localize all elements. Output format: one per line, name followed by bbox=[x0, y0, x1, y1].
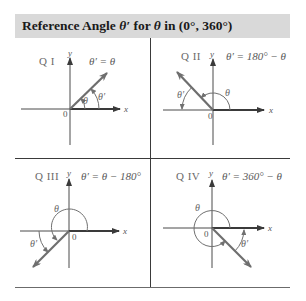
ref-angle-label: θ′ bbox=[98, 91, 106, 102]
origin-label: 0 bbox=[204, 229, 209, 239]
ref-angle-label: θ′ bbox=[241, 238, 249, 249]
theta-label: θ bbox=[225, 87, 230, 98]
terminal-ray bbox=[33, 231, 69, 267]
y-axis-label: y bbox=[66, 168, 71, 178]
theta-label: θ bbox=[83, 95, 88, 106]
quadrant-label: Q IV bbox=[176, 170, 200, 182]
x-axis-label: x bbox=[123, 104, 128, 114]
quadrant-label: Q I bbox=[39, 55, 55, 67]
formula: θ′ = θ − 180° bbox=[81, 170, 142, 182]
ref-angle-label: θ′ bbox=[177, 89, 185, 100]
quadrant-label: Q III bbox=[35, 170, 59, 182]
theta-label: θ bbox=[54, 203, 59, 214]
panel-q1: Q I θ′ = θ y x 0 θ θ′ bbox=[21, 48, 128, 145]
quadrant-label: Q II bbox=[181, 50, 201, 62]
formula: θ′ = 360° − θ bbox=[222, 170, 283, 182]
ref-angle-label: θ′ bbox=[30, 238, 38, 249]
quadrant-diagrams: Q I θ′ = θ y x 0 θ θ′ Q II θ′ = 180° − θ… bbox=[0, 0, 306, 301]
y-axis-label: y bbox=[208, 168, 213, 178]
origin-label: 0 bbox=[72, 232, 77, 242]
panel-q4: Q IV θ′ = 360° − θ y x 0 θ θ′ bbox=[163, 168, 283, 268]
origin-label: 0 bbox=[63, 109, 68, 119]
x-axis-label: x bbox=[268, 105, 273, 115]
x-axis-label: x bbox=[122, 226, 127, 236]
panel-q3: Q III θ′ = θ − 180° y x 0 θ θ′ bbox=[20, 168, 142, 268]
formula: θ′ = 180° − θ bbox=[226, 50, 287, 62]
x-axis-label: x bbox=[267, 223, 272, 233]
panel-q2: Q II θ′ = 180° − θ y x 0 θ θ′ bbox=[163, 49, 287, 145]
ref-angle-arc bbox=[39, 231, 48, 252]
formula: θ′ = θ bbox=[89, 55, 116, 67]
y-axis-label: y bbox=[209, 49, 214, 59]
origin-label: 0 bbox=[208, 111, 213, 121]
theta-label: θ bbox=[195, 202, 200, 213]
y-axis-label: y bbox=[67, 48, 72, 58]
